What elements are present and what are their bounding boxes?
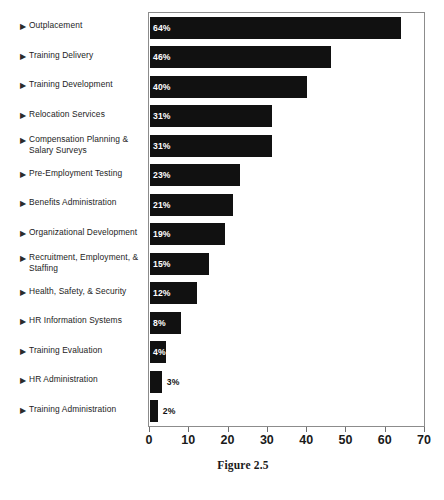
- category-label-row: ▶Pre-Employment Testing: [0, 163, 146, 185]
- category-label-text: Compensation Planning & Salary Surveys: [29, 134, 146, 155]
- bar-value-label: 2%: [163, 406, 176, 416]
- x-axis-tick-label: 60: [378, 433, 392, 447]
- bar-value-label: 21%: [153, 200, 171, 210]
- category-label-row: ▶HR Information Systems: [0, 311, 146, 333]
- category-label-text: Benefits Administration: [29, 197, 146, 207]
- category-label-text: Outplacement: [29, 20, 146, 30]
- category-label-column: ▶Outplacement▶Training Delivery▶Training…: [0, 12, 146, 427]
- category-label-row: ▶HR Administration: [0, 370, 146, 392]
- x-axis-tick-mark: [345, 427, 346, 432]
- bar: 8%: [150, 312, 181, 334]
- x-axis-tick-label: 10: [181, 433, 195, 447]
- category-label-row: ▶Training Development: [0, 75, 146, 97]
- bar-value-label: 23%: [153, 170, 171, 180]
- category-label-row: ▶Relocation Services: [0, 104, 146, 126]
- category-label-text: Health, Safety, & Security: [29, 286, 146, 296]
- bullet-triangle-icon: ▶: [20, 51, 29, 63]
- category-label: ▶Training Development: [0, 79, 146, 92]
- x-axis-tick-label: 40: [299, 433, 313, 447]
- category-label: ▶Outplacement: [0, 20, 146, 33]
- bar-value-label: 4%: [153, 347, 166, 357]
- x-axis-tick-mark: [149, 427, 150, 432]
- x-axis-tick-mark: [267, 427, 268, 432]
- bar-row: 40%: [150, 76, 307, 98]
- bar-row: 31%: [150, 135, 272, 157]
- category-label-row: ▶Training Delivery: [0, 45, 146, 67]
- x-axis: 010203040506070: [148, 427, 425, 457]
- bar: [150, 400, 158, 422]
- bar-row: 64%: [150, 17, 401, 39]
- category-label: ▶HR Administration: [0, 374, 146, 387]
- category-label: ▶Benefits Administration: [0, 197, 146, 210]
- bar-row: 23%: [150, 164, 240, 186]
- bar-value-label: 40%: [153, 82, 171, 92]
- category-label-text: Training Administration: [29, 404, 146, 414]
- bullet-triangle-icon: ▶: [20, 253, 29, 265]
- category-label-text: Relocation Services: [29, 109, 146, 119]
- category-label: ▶Health, Safety, & Security: [0, 286, 146, 299]
- category-label-text: Training Development: [29, 79, 146, 89]
- bullet-triangle-icon: ▶: [20, 135, 29, 147]
- bar-row: 8%: [150, 312, 181, 334]
- x-axis-tick-label: 20: [221, 433, 235, 447]
- category-label-text: Training Evaluation: [29, 345, 146, 355]
- category-label: ▶Training Administration: [0, 404, 146, 417]
- category-label: ▶Organizational Development: [0, 227, 146, 240]
- bar-value-label: 12%: [153, 288, 171, 298]
- bars-layer: 64%46%40%31%31%23%21%19%15%12%8%4%3%2%: [149, 13, 424, 426]
- category-label: ▶Compensation Planning & Salary Surveys: [0, 134, 146, 155]
- bar-row: 12%: [150, 282, 197, 304]
- bar: 31%: [150, 105, 272, 127]
- x-axis-tick-mark: [306, 427, 307, 432]
- bullet-triangle-icon: ▶: [20, 198, 29, 210]
- category-label-text: Training Delivery: [29, 50, 146, 60]
- bullet-triangle-icon: ▶: [20, 110, 29, 122]
- category-label: ▶Training Evaluation: [0, 345, 146, 358]
- bullet-triangle-icon: ▶: [20, 21, 29, 33]
- bar-value-label: 46%: [153, 52, 171, 62]
- bar-row: 31%: [150, 105, 272, 127]
- category-label: ▶Relocation Services: [0, 109, 146, 122]
- x-axis-tick-mark: [424, 427, 425, 432]
- bar-row: 15%: [150, 253, 209, 275]
- category-label-text: Pre-Employment Testing: [29, 168, 146, 178]
- category-label-row: ▶Recruitment, Employment, & Staffing: [0, 252, 146, 274]
- figure-2-5: ▶Outplacement▶Training Delivery▶Training…: [0, 0, 444, 500]
- category-label: ▶HR Information Systems: [0, 315, 146, 328]
- bullet-triangle-icon: ▶: [20, 346, 29, 358]
- category-label-row: ▶Outplacement: [0, 16, 146, 38]
- bar: 23%: [150, 164, 240, 186]
- category-label-row: ▶Organizational Development: [0, 222, 146, 244]
- category-label-row: ▶Training Evaluation: [0, 340, 146, 362]
- bar-value-label: 64%: [153, 23, 171, 33]
- x-axis-tick-mark: [228, 427, 229, 432]
- bar: 40%: [150, 76, 307, 98]
- bullet-triangle-icon: ▶: [20, 80, 29, 92]
- category-label: ▶Recruitment, Employment, & Staffing: [0, 252, 146, 273]
- bullet-triangle-icon: ▶: [20, 169, 29, 181]
- bar-row: 3%: [150, 371, 179, 393]
- category-label-row: ▶Health, Safety, & Security: [0, 281, 146, 303]
- category-label-row: ▶Compensation Planning & Salary Surveys: [0, 134, 146, 156]
- bar-row: 4%: [150, 341, 166, 363]
- bar-row: 21%: [150, 194, 233, 216]
- x-axis-tick-label: 0: [146, 433, 153, 447]
- bar: 21%: [150, 194, 233, 216]
- category-label-text: Organizational Development: [29, 227, 146, 237]
- x-axis-tick-mark: [385, 427, 386, 432]
- x-axis-tick-label: 50: [338, 433, 352, 447]
- bar-value-label: 3%: [167, 377, 180, 387]
- bar-value-label: 31%: [153, 111, 171, 121]
- category-label-text: Recruitment, Employment, & Staffing: [29, 252, 146, 273]
- category-label-text: HR Administration: [29, 374, 146, 384]
- bar-value-label: 8%: [153, 318, 166, 328]
- bullet-triangle-icon: ▶: [20, 287, 29, 299]
- bar-row: 46%: [150, 46, 331, 68]
- category-label: ▶Pre-Employment Testing: [0, 168, 146, 181]
- bar: 64%: [150, 17, 401, 39]
- bar: 19%: [150, 223, 225, 245]
- bar: 46%: [150, 46, 331, 68]
- figure-caption: Figure 2.5: [148, 459, 338, 471]
- bar: [150, 371, 162, 393]
- bar: 12%: [150, 282, 197, 304]
